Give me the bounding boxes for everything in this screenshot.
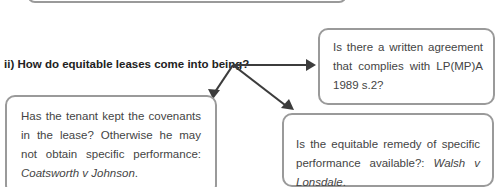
covenants-text: Has the tenant kept the covenants in the… [21,110,201,160]
covenants-end: . [135,167,138,179]
arrow-to-remedy [233,65,285,105]
covenants-case: Coatsworth v Johnson [21,167,135,179]
remedy-box: Is the equitable remedy of specific perf… [282,113,494,187]
covenants-box: Has the tenant kept the covenants in the… [5,95,217,187]
remedy-end: . [343,176,346,187]
written-agreement-text: Is there a written agreement that compli… [333,41,483,91]
arrow-to-covenants [215,65,233,92]
written-agreement-box: Is there a written agreement that compli… [318,28,495,105]
